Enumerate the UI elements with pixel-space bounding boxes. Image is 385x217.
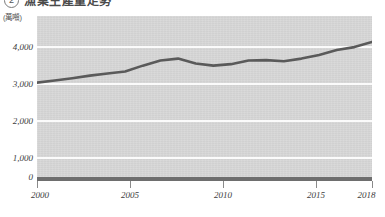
x-tick-mark-2010 bbox=[223, 181, 224, 188]
chart-heading: 2 漁業生產量走勢 bbox=[0, 0, 385, 9]
x-tick-label-2018: 2018 bbox=[358, 190, 376, 200]
x-tick-mark-2005 bbox=[130, 181, 131, 188]
plot-area bbox=[37, 16, 372, 179]
data-line-series bbox=[37, 16, 372, 179]
chart-container: 2 漁業生產量走勢 (萬噸) 4,000 3,000 2,000 1,000 0… bbox=[0, 0, 385, 217]
y-tick-label-1000: 1,000 bbox=[13, 153, 33, 163]
y-tick-label-4000: 4,000 bbox=[13, 42, 33, 52]
x-tick-label-2005: 2005 bbox=[121, 190, 139, 200]
y-tick-label-3000: 3,000 bbox=[13, 79, 33, 89]
x-axis-baseline bbox=[37, 177, 372, 181]
x-tick-mark-2018 bbox=[372, 181, 373, 188]
chart-title: 漁業生產量走勢 bbox=[24, 0, 112, 9]
x-tick-label-2010: 2010 bbox=[214, 190, 232, 200]
y-tick-label-2000: 2,000 bbox=[13, 116, 33, 126]
x-tick-label-2000: 2000 bbox=[31, 190, 49, 200]
y-tick-label-0: 0 bbox=[29, 172, 34, 182]
x-tick-label-2015: 2015 bbox=[307, 190, 325, 200]
y-axis-tick-labels: 4,000 3,000 2,000 1,000 0 bbox=[0, 0, 33, 217]
x-tick-mark-2000 bbox=[37, 181, 38, 188]
x-tick-mark-2015 bbox=[316, 181, 317, 188]
